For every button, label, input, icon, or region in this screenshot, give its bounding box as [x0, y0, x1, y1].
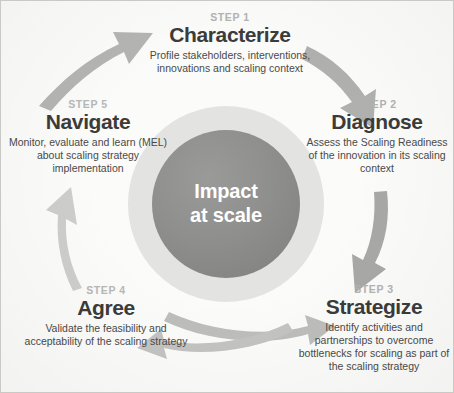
- step-agree-description: Validate the feasibility and acceptabili…: [23, 322, 189, 348]
- step-strategize-title: Strategize: [295, 296, 453, 318]
- step-strategize-kicker: STEP 3: [295, 283, 453, 295]
- step-agree[interactable]: STEP 4 Agree Validate the feasibility an…: [23, 284, 189, 348]
- step-characterize[interactable]: STEP 1 Characterize Profile stakeholders…: [123, 11, 337, 75]
- step-navigate[interactable]: STEP 5 Navigate Monitor, evaluate and le…: [7, 98, 169, 175]
- step-navigate-title: Navigate: [7, 111, 169, 133]
- center-impact-line2: at scale: [190, 204, 262, 226]
- step-agree-kicker: STEP 4: [23, 284, 189, 296]
- step-characterize-description: Profile stakeholders, interventions, inn…: [123, 49, 337, 75]
- step-diagnose[interactable]: STEP 2 Diagnose Assess the Scaling Readi…: [301, 98, 453, 175]
- step-diagnose-description: Assess the Scaling Readiness of the inno…: [301, 136, 453, 175]
- step-characterize-kicker: STEP 1: [123, 11, 337, 23]
- arrow-diagnose-to-strategize: [352, 191, 388, 293]
- step-diagnose-kicker: STEP 2: [301, 98, 453, 110]
- center-impact-circle: Impact at scale: [152, 130, 300, 278]
- step-agree-title: Agree: [23, 297, 189, 319]
- step-strategize-description: Identify activities and partnerships to …: [295, 321, 453, 373]
- step-strategize[interactable]: STEP 3 Strategize Identify activities an…: [295, 283, 453, 373]
- center-impact-label: Impact at scale: [190, 180, 262, 227]
- step-navigate-description: Monitor, evaluate and learn (MEL) about …: [7, 136, 169, 175]
- step-diagnose-title: Diagnose: [301, 111, 453, 133]
- step-navigate-kicker: STEP 5: [7, 98, 169, 110]
- center-impact-line1: Impact: [194, 180, 257, 202]
- step-characterize-title: Characterize: [123, 24, 337, 46]
- arrow-agree-to-navigate: [46, 187, 82, 291]
- scaling-readiness-diagram: Impact at scale STEP 1 Characterize Prof…: [0, 0, 454, 393]
